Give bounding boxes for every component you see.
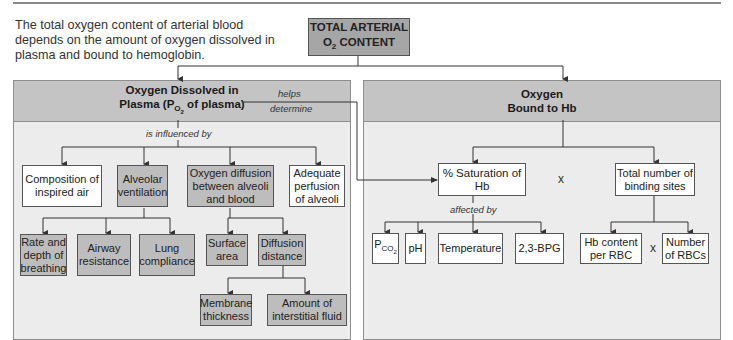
- node-alveolar-ventilation: Alveolar ventilation: [117, 165, 168, 207]
- node-adequate-perfusion: Adequate perfusion of alveoli: [289, 165, 345, 207]
- node-interstitial-fluid: Amount of interstitial fluid: [267, 294, 347, 326]
- node-hb-content-per-rbc: Hb content per RBC: [580, 233, 642, 264]
- node-number-of-rbcs: Number of RBCs: [662, 233, 709, 264]
- label-is-influenced-by: is influenced by: [146, 128, 211, 139]
- node-composition-inspired-air: Composition of inspired air: [22, 165, 102, 207]
- label-helps: helps: [278, 88, 301, 99]
- node-oxygen-diffusion: Oxygen diffusion between alveoli and blo…: [187, 165, 274, 207]
- multiply-sign-2: x: [650, 241, 656, 255]
- node-lung-compliance: Lung compliance: [139, 234, 195, 276]
- node-surface-area: Surface area: [206, 234, 248, 266]
- node-2-3-bpg: 2,3-BPG: [515, 233, 564, 264]
- multiply-sign: x: [558, 172, 564, 186]
- node-ph: pH: [405, 233, 426, 264]
- node-rate-depth-breathing: Rate and depth of breathing: [20, 234, 67, 276]
- node-airway-resistance: Airway resistance: [77, 234, 131, 276]
- node-membrane-thickness: Membrane thickness: [200, 294, 252, 326]
- node-total-binding-sites: Total number of binding sites: [615, 163, 695, 196]
- label-affected-by: affected by: [450, 204, 496, 215]
- node-diffusion-distance: Diffusion distance: [258, 234, 306, 266]
- node-percent-saturation-hb: % Saturation of Hb: [438, 163, 526, 196]
- node-temperature: Temperature: [438, 233, 503, 264]
- node-pco2: PCO2: [372, 233, 399, 264]
- node-total-arterial-o2: TOTAL ARTERIAL O2 CONTENT: [308, 18, 410, 56]
- label-determine: determine: [270, 103, 312, 114]
